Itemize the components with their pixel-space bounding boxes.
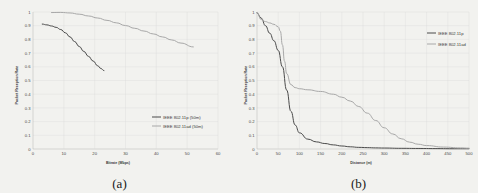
- svg-text:0: 0: [252, 147, 255, 152]
- svg-text:200: 200: [338, 151, 346, 156]
- svg-text:0.6: 0.6: [25, 64, 31, 69]
- svg-text:100: 100: [296, 151, 304, 156]
- svg-text:0.5: 0.5: [249, 78, 255, 83]
- chart-a-yticks: 00.10.20.30.40.50.60.70.80.91: [25, 10, 31, 152]
- chart-a-svg: 00.10.20.30.40.50.60.70.80.91 0102030405…: [0, 0, 239, 193]
- svg-text:250: 250: [360, 151, 368, 156]
- svg-text:0.4: 0.4: [25, 92, 31, 97]
- svg-text:40: 40: [154, 151, 159, 156]
- svg-text:0.4: 0.4: [249, 92, 255, 97]
- svg-text:0.7: 0.7: [249, 51, 255, 56]
- svg-text:150: 150: [317, 151, 325, 156]
- svg-text:400: 400: [423, 151, 431, 156]
- figure-container: 00.10.20.30.40.50.60.70.80.91 0102030405…: [0, 0, 478, 193]
- chart-b-y-axis-title: Packet Reception Rate: [244, 66, 248, 105]
- svg-text:0: 0: [32, 151, 35, 156]
- svg-text:0.9: 0.9: [249, 23, 255, 28]
- svg-text:0.2: 0.2: [249, 119, 255, 124]
- svg-text:300: 300: [381, 151, 389, 156]
- svg-text:0.2: 0.2: [25, 119, 31, 124]
- svg-text:0.9: 0.9: [25, 23, 31, 28]
- svg-text:20: 20: [92, 151, 97, 156]
- svg-text:IEEE 802.11p (50m): IEEE 802.11p (50m): [163, 115, 201, 120]
- svg-text:0.5: 0.5: [25, 78, 31, 83]
- svg-text:500: 500: [466, 151, 474, 156]
- svg-text:0.3: 0.3: [25, 106, 31, 111]
- svg-text:0: 0: [28, 147, 31, 152]
- chart-b-yticks: 00.10.20.30.40.50.60.70.80.91: [249, 10, 255, 152]
- svg-text:50: 50: [276, 151, 281, 156]
- svg-text:450: 450: [444, 151, 452, 156]
- panel-b: 00.10.20.30.40.50.60.70.80.91 0501001502…: [239, 0, 478, 193]
- svg-text:1: 1: [28, 10, 31, 15]
- svg-text:IEEE 802.11ad (50m): IEEE 802.11ad (50m): [163, 124, 204, 129]
- chart-a-y-axis-title: Packet Reception Rate: [15, 66, 19, 105]
- svg-text:0.1: 0.1: [25, 133, 31, 138]
- panel-b-caption: (b): [239, 176, 478, 192]
- svg-text:0.8: 0.8: [25, 37, 31, 42]
- svg-text:0.1: 0.1: [249, 133, 255, 138]
- chart-b-svg: 00.10.20.30.40.50.60.70.80.91 0501001502…: [239, 0, 478, 193]
- svg-text:10: 10: [61, 151, 66, 156]
- svg-text:350: 350: [402, 151, 410, 156]
- svg-text:0: 0: [256, 151, 259, 156]
- svg-text:IEEE 802.11ad: IEEE 802.11ad: [438, 42, 467, 47]
- svg-text:0.6: 0.6: [249, 64, 255, 69]
- svg-text:1: 1: [252, 10, 255, 15]
- chart-a-xticks: 0102030405060: [32, 151, 221, 156]
- chart-b-xticks: 050100150200250300350400450500: [256, 151, 473, 156]
- chart-a-x-axis-title: Bitrate (Mbps): [106, 161, 131, 165]
- chart-b-legend: IEEE 802.11pIEEE 802.11ad: [427, 31, 467, 47]
- svg-text:0.7: 0.7: [25, 51, 31, 56]
- svg-text:0.3: 0.3: [249, 106, 255, 111]
- panel-a: 00.10.20.30.40.50.60.70.80.91 0102030405…: [0, 0, 239, 193]
- svg-text:50: 50: [185, 151, 190, 156]
- chart-b-x-axis-title: Distance (m): [350, 161, 372, 165]
- svg-text:IEEE 802.11p: IEEE 802.11p: [438, 31, 464, 36]
- svg-text:0.8: 0.8: [249, 37, 255, 42]
- panel-a-caption: (a): [0, 176, 239, 192]
- svg-text:30: 30: [123, 151, 128, 156]
- chart-a-series: [42, 12, 193, 70]
- svg-text:60: 60: [216, 151, 221, 156]
